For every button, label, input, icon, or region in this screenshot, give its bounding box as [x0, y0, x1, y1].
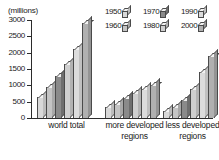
swatch-side-face: [166, 5, 169, 15]
x-axis-group-label: less developedregions: [163, 120, 219, 142]
y-axis-tick-mark: [27, 53, 31, 54]
bar-column[interactable]: [208, 56, 217, 118]
y-axis-tick-mark: [27, 102, 31, 103]
legend-item-label: 1990: [181, 7, 197, 16]
bar[interactable]: [190, 89, 197, 118]
bar-column[interactable]: [123, 98, 132, 118]
x-axis-group-label: more developedregions: [105, 120, 164, 142]
bar-column[interactable]: [37, 97, 46, 118]
bar-column[interactable]: [199, 72, 208, 118]
bar-column[interactable]: [163, 111, 172, 118]
bar[interactable]: [172, 107, 179, 118]
bar-column[interactable]: [114, 104, 123, 118]
y-axis-tick-mark: [27, 36, 31, 37]
legend-item-label: 1970: [143, 7, 159, 16]
y-axis-tick: 2000: [0, 53, 31, 54]
dark-gray-box-icon: [160, 8, 169, 17]
bar[interactable]: [55, 76, 62, 118]
y-axis-tick: 3000: [0, 20, 31, 21]
bar-column[interactable]: [181, 100, 190, 118]
bar[interactable]: [199, 72, 206, 118]
y-axis-tick: 500: [0, 102, 31, 103]
y-axis-tick: 1500: [0, 69, 31, 70]
bar-column[interactable]: [73, 49, 82, 118]
bar[interactable]: [64, 64, 71, 118]
legend-item[interactable]: 1960: [105, 20, 143, 31]
light-gray-box-icon: [160, 22, 169, 31]
legend-item-label: 1960: [105, 21, 121, 30]
bar-group: less developedregions: [163, 20, 219, 118]
y-axis-tick-mark: [27, 85, 31, 86]
bar[interactable]: [208, 56, 215, 118]
bar-column[interactable]: [64, 64, 73, 118]
bar-side-face: [214, 49, 218, 118]
x-axis-group-label: world total: [37, 120, 96, 131]
legend-row-2: 196019802000: [105, 18, 219, 32]
chart-legend: 195019701990 196019802000: [105, 4, 219, 32]
y-axis-tick-label: 2000: [8, 48, 25, 57]
swatch-side-face: [128, 19, 131, 29]
bar-chart: (millions) 300025002000150010005000 worl…: [0, 0, 219, 160]
bar-side-face: [156, 78, 160, 118]
bar-column[interactable]: [190, 89, 199, 118]
bar-group: more developedregions: [105, 20, 164, 118]
y-axis-tick-label: 500: [13, 97, 25, 106]
y-axis-tick-label: 0: [21, 113, 25, 122]
bar-group-bars: [105, 20, 159, 118]
bar-column[interactable]: [172, 107, 181, 118]
bar[interactable]: [141, 89, 148, 118]
legend-item-label: 2000: [181, 21, 197, 30]
swatch-side-face: [166, 19, 169, 29]
bar[interactable]: [150, 85, 157, 118]
legend-item[interactable]: 2000: [181, 20, 219, 31]
y-axis-tick-label: 2500: [8, 31, 25, 40]
bar[interactable]: [73, 49, 80, 118]
bar[interactable]: [37, 97, 44, 118]
x-axis-line: [31, 118, 213, 119]
y-axis-line: [31, 20, 32, 118]
y-axis-tick: 0: [0, 118, 31, 119]
y-axis-tick-label: 1000: [8, 80, 25, 89]
light-gray-box-icon: [122, 8, 131, 17]
bar[interactable]: [105, 107, 112, 118]
legend-item[interactable]: 1980: [143, 20, 181, 31]
bar-group-bars: [37, 20, 91, 118]
legend-item[interactable]: 1970: [143, 6, 181, 17]
bar-side-face: [88, 16, 92, 118]
y-axis-tick-mark: [27, 20, 31, 21]
bar[interactable]: [46, 87, 53, 118]
swatch-side-face: [128, 5, 131, 15]
legend-item[interactable]: 1990: [181, 6, 219, 17]
bar[interactable]: [132, 93, 139, 118]
bar-group: world total: [37, 20, 96, 118]
bar-column[interactable]: [141, 89, 150, 118]
bar[interactable]: [123, 98, 130, 118]
bar-group-bars: [163, 20, 217, 118]
light-gray-box-icon: [198, 8, 207, 17]
y-axis-tick-mark: [27, 69, 31, 70]
bar[interactable]: [181, 100, 188, 118]
y-axis-tick: 2500: [0, 36, 31, 37]
y-axis-tick-mark: [27, 118, 31, 119]
mid-gray-box-icon: [198, 22, 207, 31]
bar[interactable]: [82, 23, 89, 118]
bar-column[interactable]: [105, 107, 114, 118]
bar[interactable]: [114, 104, 121, 118]
bar-column[interactable]: [82, 23, 91, 118]
y-axis-tick: 1000: [0, 85, 31, 86]
bar-column[interactable]: [46, 87, 55, 118]
legend-row-1: 195019701990: [105, 4, 219, 18]
legend-item-label: 1950: [105, 7, 121, 16]
bar-column[interactable]: [132, 93, 141, 118]
bar-column[interactable]: [55, 76, 64, 118]
y-axis-tick-label: 1500: [8, 64, 25, 73]
legend-item-label: 1980: [143, 21, 159, 30]
bar[interactable]: [163, 111, 170, 118]
y-axis-tick-label: 3000: [8, 15, 25, 24]
swatch-side-face: [204, 19, 207, 29]
mid-gray-box-icon: [122, 22, 131, 31]
swatch-side-face: [204, 5, 207, 15]
y-axis-unit-label: (millions): [8, 6, 38, 15]
legend-item[interactable]: 1950: [105, 6, 143, 17]
bar-column[interactable]: [150, 85, 159, 118]
